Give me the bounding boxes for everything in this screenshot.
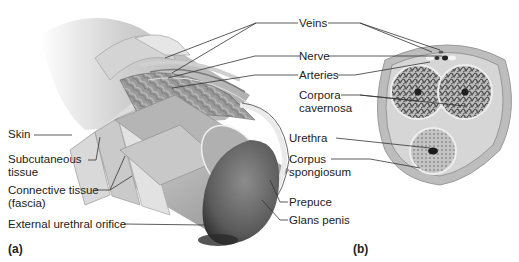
label-veins: Veins [299, 17, 327, 30]
label-connective-line2: (fascia) [8, 197, 99, 210]
label-connective-tissue: Connective tissue (fascia) [8, 184, 99, 210]
label-subcutaneous-line1: Subcutaneous [8, 153, 82, 166]
label-prepuce: Prepuce [289, 196, 332, 209]
label-corpora-cavernosa: Corpora cavernosa [299, 89, 352, 115]
label-nerve: Nerve [299, 50, 330, 63]
label-external-urethral-orifice: External urethral orifice [8, 218, 126, 231]
label-skin: Skin [8, 128, 30, 141]
label-connective-line1: Connective tissue [8, 184, 99, 197]
label-subcutaneous-tissue: Subcutaneous tissue [8, 153, 82, 179]
label-urethra: Urethra [289, 132, 327, 145]
label-corpus-spongiosum: Corpus spongiosum [289, 153, 351, 179]
panel-b-letter: (b) [353, 242, 368, 256]
label-glans-penis: Glans penis [289, 214, 350, 227]
label-arteries: Arteries [299, 69, 339, 82]
panel-a-letter: (a) [8, 242, 23, 256]
longitudinal-view [40, 18, 290, 246]
label-corpora-line2: cavernosa [299, 102, 352, 115]
label-corpus-line2: spongiosum [289, 166, 351, 179]
label-corpus-line1: Corpus [289, 153, 351, 166]
label-corpora-line1: Corpora [299, 89, 352, 102]
anatomy-figure: Skin Subcutaneous tissue Connective tiss… [0, 0, 519, 262]
label-subcutaneous-line2: tissue [8, 166, 82, 179]
